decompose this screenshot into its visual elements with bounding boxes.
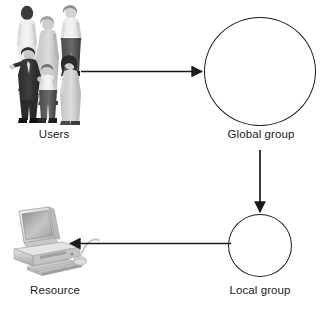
local-group-label: Local group [200,284,320,296]
diagram-canvas: Users Global group Local group Resource [0,0,321,309]
global-group-label: Global group [201,128,321,140]
users-label: Users [0,128,108,140]
arrows-layer [0,0,321,309]
resource-label: Resource [0,284,110,296]
